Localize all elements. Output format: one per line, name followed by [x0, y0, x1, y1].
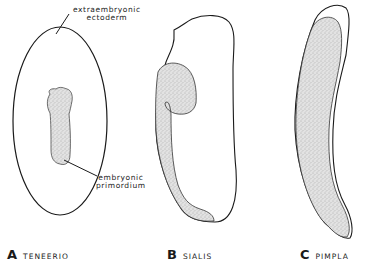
panel-species-name: SIALIS	[183, 252, 212, 261]
panel-label-a: A TENEERIO	[7, 247, 69, 262]
callout-extraembryonic-ectoderm: extraembryonic ectoderm	[73, 6, 141, 22]
callout-text-line: primordium	[96, 182, 146, 190]
callout-line-ectoderm	[56, 14, 69, 34]
panel-a-teneerio-egg	[13, 14, 107, 215]
panel-letter: B	[167, 247, 177, 262]
panel-b-sialis-egg	[156, 16, 237, 222]
embryo-diagram	[0, 0, 371, 267]
panel-letter: C	[300, 247, 310, 262]
callout-text-line: ectoderm	[73, 14, 141, 22]
panel-label-c: C PIMPLA	[300, 247, 349, 262]
panel-species-name: PIMPLA	[316, 252, 349, 261]
embryonic-primordium-a	[47, 87, 72, 164]
panel-c-pimpla-egg	[295, 5, 352, 238]
callout-line-primordium	[64, 160, 97, 176]
panel-label-b: B SIALIS	[167, 247, 212, 262]
embryonic-primordium-b	[156, 63, 214, 221]
callout-embryonic-primordium: embryonic primordium	[96, 174, 146, 190]
panel-species-name: TENEERIO	[23, 252, 69, 261]
embryonic-primordium-c	[296, 17, 349, 237]
panel-letter: A	[7, 247, 17, 262]
